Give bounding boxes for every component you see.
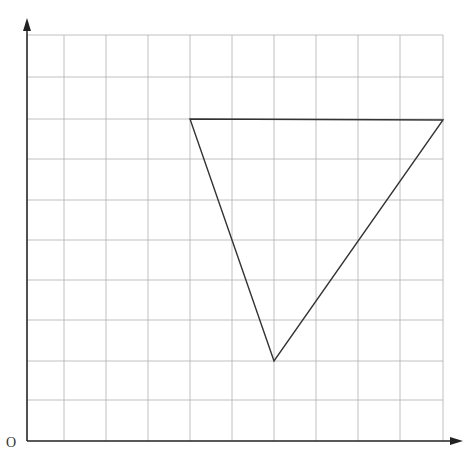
grid-diagram [0, 0, 471, 465]
y-axis-arrow-icon [23, 18, 31, 31]
x-axis-arrow-icon [450, 437, 463, 445]
origin-label: O [6, 435, 16, 451]
